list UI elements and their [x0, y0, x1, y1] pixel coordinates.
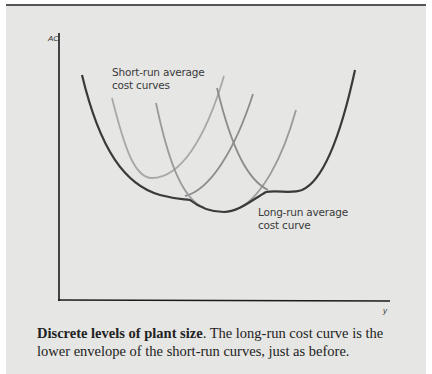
srac-curve-3-right-arm: [240, 110, 296, 208]
figure-caption: Discrete levels of plant size. The long-…: [37, 324, 397, 360]
caption-title: Discrete levels of plant size: [37, 325, 203, 341]
x-axis-label: y: [383, 306, 387, 315]
srac-curve-3-left-arm: [156, 103, 205, 208]
short-run-annotation: Short-run average cost curves: [112, 66, 205, 92]
srac-curve-4-left-arm: [217, 88, 268, 190]
x-axis: [58, 300, 390, 301]
long-run-annotation: Long-run average cost curve: [258, 206, 348, 232]
y-axis-label: AC: [48, 34, 59, 43]
